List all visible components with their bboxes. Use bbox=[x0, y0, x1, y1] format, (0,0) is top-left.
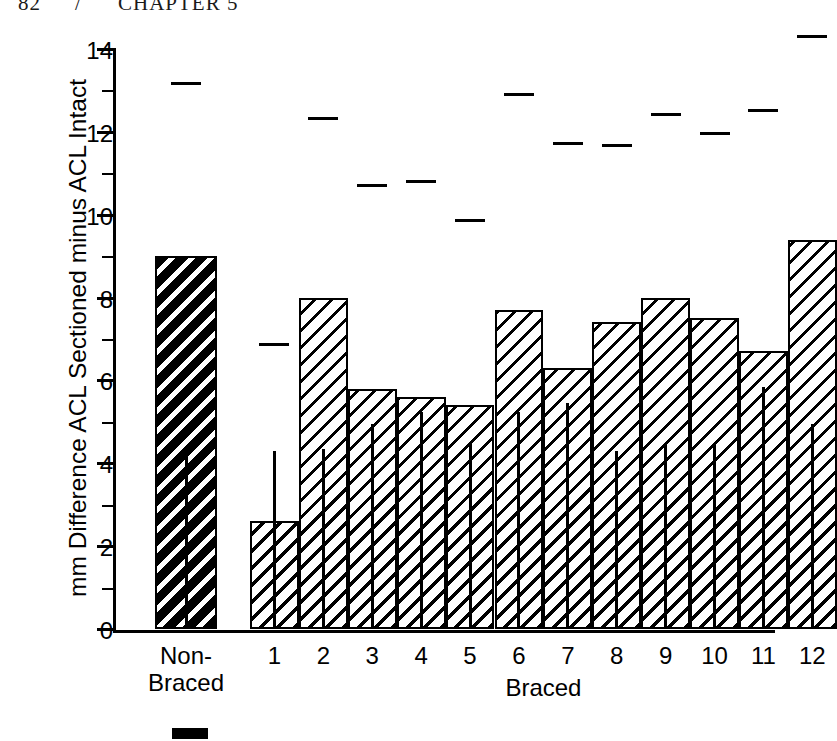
error-bar-cap bbox=[651, 113, 681, 116]
group-label-braced: Braced bbox=[250, 674, 837, 701]
running-head-page-number: 82 bbox=[18, 0, 41, 16]
x-axis-tick-label-3: 3 bbox=[348, 642, 397, 669]
error-bar-stem bbox=[420, 412, 423, 630]
error-bar-6 bbox=[495, 93, 544, 630]
error-bar-stem bbox=[664, 445, 667, 629]
error-bar-cap bbox=[504, 93, 534, 96]
x-axis-tick-label-6: 6 bbox=[495, 642, 544, 669]
error-bar-1 bbox=[250, 343, 299, 629]
group-label-non-braced-line1: Non- bbox=[130, 642, 242, 669]
error-bar-stem bbox=[566, 403, 569, 629]
error-bar-cap bbox=[700, 132, 730, 135]
x-axis-line bbox=[113, 630, 775, 633]
error-bar-cap bbox=[308, 117, 338, 120]
plot-area: 02468101214 mm Difference ACL Sectioned … bbox=[113, 50, 775, 632]
error-bar-cap bbox=[553, 142, 583, 145]
error-bar-cap bbox=[797, 35, 827, 38]
error-bar-cap bbox=[259, 343, 289, 346]
error-bar-non-braced bbox=[155, 82, 217, 629]
error-bar-stem bbox=[762, 387, 765, 629]
error-bar-cap bbox=[455, 219, 485, 222]
error-bar-stem bbox=[615, 451, 618, 629]
error-bar-stem bbox=[469, 443, 472, 629]
x-axis-tick-label-9: 9 bbox=[641, 642, 690, 669]
error-bar-cap bbox=[748, 109, 778, 112]
error-bar-cap bbox=[357, 184, 387, 187]
error-bar-stem bbox=[185, 455, 188, 629]
error-bar-3 bbox=[348, 184, 397, 629]
error-bar-12 bbox=[788, 35, 837, 630]
error-bar-5 bbox=[446, 219, 495, 629]
error-bar-4 bbox=[397, 180, 446, 630]
x-axis-tick-label-11: 11 bbox=[739, 642, 788, 669]
x-axis-tick-label-12: 12 bbox=[788, 642, 837, 669]
x-axis-tick-label-4: 4 bbox=[397, 642, 446, 669]
error-bar-cap bbox=[406, 180, 436, 183]
x-axis-tick-label-8: 8 bbox=[592, 642, 641, 669]
x-axis-tick-label-7: 7 bbox=[543, 642, 592, 669]
error-bar-stem bbox=[273, 451, 276, 629]
legend-swatch-icon bbox=[172, 728, 208, 739]
error-bar-8 bbox=[592, 144, 641, 629]
group-label-non-braced-line2: Braced bbox=[130, 669, 242, 696]
group-label-non-braced: Non- Braced bbox=[130, 642, 242, 696]
error-bar-stem bbox=[811, 424, 814, 629]
y-axis-title: mm Difference ACL Sectioned minus ACL In… bbox=[64, 0, 92, 698]
x-axis-tick-label-2: 2 bbox=[299, 642, 348, 669]
error-bar-stem bbox=[713, 443, 716, 629]
x-axis-tick-label-1: 1 bbox=[250, 642, 299, 669]
error-bar-10 bbox=[690, 132, 739, 629]
error-bar-stem bbox=[322, 449, 325, 629]
x-axis-tick-label-10: 10 bbox=[690, 642, 739, 669]
x-axis-tick-label-5: 5 bbox=[446, 642, 495, 669]
running-head-chapter: CHAPTER 5 bbox=[118, 0, 238, 16]
error-bar-11 bbox=[739, 109, 788, 629]
error-bar-9 bbox=[641, 113, 690, 629]
error-bar-stem bbox=[517, 412, 520, 630]
error-bar-cap bbox=[602, 144, 632, 147]
error-bar-cap bbox=[171, 82, 201, 85]
error-bar-stem bbox=[371, 424, 374, 629]
error-bar-2 bbox=[299, 117, 348, 629]
running-head: 82 / CHAPTER 5 bbox=[0, 0, 796, 17]
error-bar-7 bbox=[543, 142, 592, 629]
